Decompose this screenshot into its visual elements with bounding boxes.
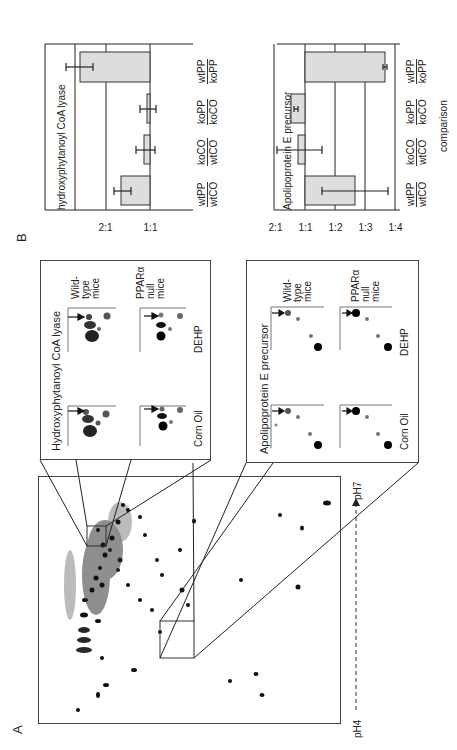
chart-apoe-ytick-2-1: 2:1	[269, 222, 283, 233]
chart-apoe-ytick-1-3: 1:3	[359, 222, 373, 233]
chart-apoe	[0, 0, 457, 750]
chart-apoe-cat-0: wtPPwtCO	[405, 182, 428, 207]
chart-apoe-cat-3: wtPPkoPP	[405, 59, 428, 84]
chart-apoe-cat-2: koPPkoCO	[405, 99, 428, 125]
chart-xlabel: comparison	[438, 100, 449, 152]
chart-apoe-cat-1: koCOwtCO	[405, 138, 428, 166]
chart-apoe-ytick-1-2: 1:2	[329, 222, 343, 233]
figure: A pH4 pH7 Hydroxyphytanoyl CoA lyase Cor…	[0, 0, 457, 750]
chart-apoe-ytick-1-4: 1:4	[389, 222, 403, 233]
chart-apoe-error-bars	[277, 64, 388, 195]
chart-apoe-ytick-1-1: 1:1	[299, 222, 313, 233]
